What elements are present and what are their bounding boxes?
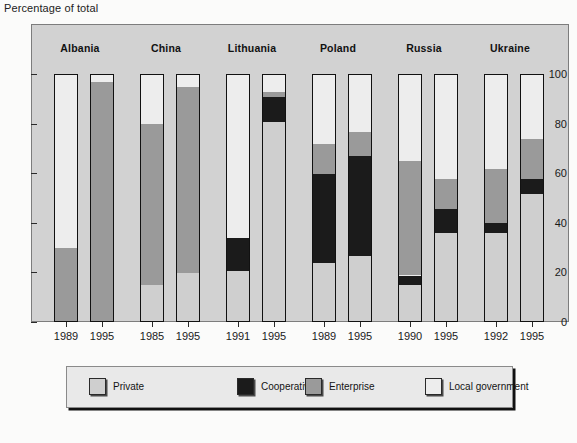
bar-segment-cooperative (263, 97, 285, 122)
bar-segment-private (313, 263, 335, 322)
bar-segment-private (435, 233, 457, 322)
stacked-bar-lithuania-1995[interactable] (262, 74, 286, 322)
country-label-ukraine: Ukraine (490, 42, 530, 54)
bar-segment-enterprise (435, 179, 457, 209)
chart-legend: PrivateCooperativeEnterpriseLocal govern… (66, 366, 513, 408)
bar-segment-private (399, 285, 421, 322)
stacked-bar-lithuania-1991[interactable] (226, 74, 250, 322)
bar-segment-cooperative (435, 209, 457, 234)
bar-segment-cooperative (399, 276, 421, 286)
x-axis-year-label: 1991 (226, 330, 250, 342)
bar-segment-enterprise (263, 92, 285, 97)
y-axis-tick-label: 20 (555, 266, 567, 278)
stacked-bar-poland-1995[interactable] (348, 74, 372, 322)
bar-segment-local-government (141, 75, 163, 125)
bar-segment-private (227, 271, 249, 322)
bar-segment-enterprise (399, 161, 421, 275)
legend-swatch-icon (89, 378, 106, 395)
bar-segment-private (485, 233, 507, 322)
x-axis-year-label: 1989 (54, 330, 78, 342)
stacked-bar-ukraine-1995[interactable] (520, 74, 544, 322)
bar-segment-cooperative (485, 223, 507, 233)
bar-segment-enterprise (485, 169, 507, 224)
x-axis-year-label: 1992 (484, 330, 508, 342)
y-axis-tick-mark (31, 124, 37, 125)
x-axis-year-label: 1989 (312, 330, 336, 342)
bar-segment-local-government (399, 75, 421, 162)
stacked-bar-russia-1995[interactable] (434, 74, 458, 322)
x-axis-tick-mark (66, 322, 67, 327)
bar-segment-local-government (91, 75, 113, 82)
x-axis-tick-mark (410, 322, 411, 327)
bar-segment-private (177, 273, 199, 322)
stacked-bar-albania-1989[interactable] (54, 74, 78, 322)
country-label-poland: Poland (320, 42, 356, 54)
x-axis-tick-mark (496, 322, 497, 327)
x-axis-tick-mark (188, 322, 189, 327)
x-axis-year-label: 1990 (398, 330, 422, 342)
legend-item-local-government[interactable]: Local government (425, 378, 529, 395)
y-axis-tick-label: 0 (561, 316, 567, 328)
country-label-china: China (151, 42, 181, 54)
legend-label: Private (113, 381, 144, 392)
bar-segment-local-government (521, 75, 543, 139)
stacked-bar-china-1995[interactable] (176, 74, 200, 322)
y-axis-tick-mark (31, 74, 37, 75)
x-axis-year-label: 1995 (90, 330, 114, 342)
bar-segment-local-government (485, 75, 507, 169)
legend-swatch-icon (305, 378, 322, 395)
y-axis-tick-mark (31, 272, 37, 273)
legend-swatch-icon (237, 378, 254, 395)
y-axis-tick-label: 100 (549, 68, 567, 80)
bar-segment-private (349, 256, 371, 322)
stacked-bar-ukraine-1992[interactable] (484, 74, 508, 322)
bar-segment-enterprise (349, 132, 371, 157)
bar-segment-local-government (263, 75, 285, 92)
bar-segment-enterprise (521, 139, 543, 179)
x-axis-year-label: 1995 (176, 330, 200, 342)
bar-segment-cooperative (349, 156, 371, 255)
legend-label: Local government (449, 381, 529, 392)
stacked-bar-china-1985[interactable] (140, 74, 164, 322)
bar-segment-cooperative (313, 174, 335, 263)
bar-segment-local-government (177, 75, 199, 87)
axis-title: Percentage of total (4, 2, 98, 14)
bar-segment-enterprise (177, 87, 199, 273)
legend-item-enterprise[interactable]: Enterprise (305, 378, 375, 395)
y-axis-tick-mark (31, 223, 37, 224)
bar-segment-enterprise (55, 248, 77, 322)
y-axis-tick-label: 60 (555, 167, 567, 179)
stacked-bar-poland-1989[interactable] (312, 74, 336, 322)
y-axis-tick-mark (31, 173, 37, 174)
x-axis-tick-mark (238, 322, 239, 327)
x-axis-tick-mark (446, 322, 447, 327)
legend-item-private[interactable]: Private (89, 378, 144, 395)
x-axis-tick-mark (532, 322, 533, 327)
country-label-lithuania: Lithuania (228, 42, 276, 54)
bar-segment-enterprise (141, 124, 163, 285)
x-axis-tick-mark (152, 322, 153, 327)
x-axis-tick-mark (360, 322, 361, 327)
country-label-albania: Albania (60, 42, 99, 54)
bar-segment-private (141, 285, 163, 322)
x-axis-tick-mark (274, 322, 275, 327)
y-axis-tick-label: 40 (555, 217, 567, 229)
bar-segment-local-government (227, 75, 249, 239)
bar-segment-cooperative (521, 179, 543, 194)
bar-segment-local-government (313, 75, 335, 144)
legend-label: Enterprise (329, 381, 375, 392)
bar-segment-enterprise (91, 82, 113, 322)
bar-segment-local-government (349, 75, 371, 132)
bar-segment-private (263, 122, 285, 322)
bar-segment-private (521, 194, 543, 322)
bar-segment-cooperative (227, 238, 249, 270)
figure-note (4, 434, 574, 443)
stacked-bar-russia-1990[interactable] (398, 74, 422, 322)
x-axis-tick-mark (102, 322, 103, 327)
x-axis-year-label: 1995 (520, 330, 544, 342)
legend-item-cooperative[interactable]: Cooperative (237, 378, 315, 395)
stacked-bar-albania-1995[interactable] (90, 74, 114, 322)
bar-segment-local-government (55, 75, 77, 249)
bar-segment-enterprise (313, 144, 335, 174)
y-axis-tick-label: 80 (555, 118, 567, 130)
